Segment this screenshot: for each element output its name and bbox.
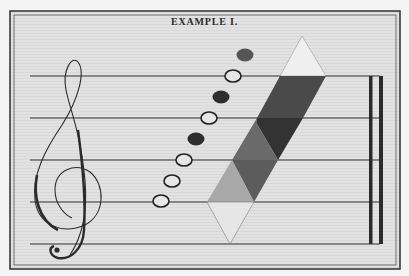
double-frame [10,11,400,269]
note-3 [176,154,192,166]
note-4 [188,133,205,146]
plate-canvas [0,0,409,276]
note-2 [164,175,180,187]
plate-title: EXAMPLE I. [0,16,409,27]
note-7 [225,70,241,82]
note-6 [213,91,230,104]
note-1 [153,195,169,207]
note-8 [237,49,254,62]
music-plate-illustration: EXAMPLE I. [0,0,409,276]
note-5 [201,112,217,124]
